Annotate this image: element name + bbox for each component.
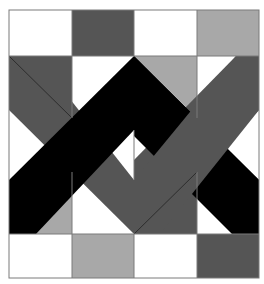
- quilt-block: [0, 0, 264, 284]
- top-square-3: [134, 10, 197, 56]
- bottom-square-4: [197, 234, 259, 278]
- bottom-square-3: [134, 234, 197, 278]
- bottom-square-2: [72, 234, 134, 278]
- top-square-2: [72, 10, 134, 56]
- bottom-square-1: [9, 234, 72, 278]
- top-square-1: [9, 10, 72, 56]
- top-square-4: [197, 10, 259, 56]
